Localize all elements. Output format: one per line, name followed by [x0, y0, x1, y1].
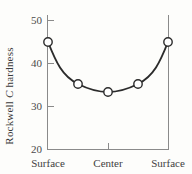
x-tick-label-surface-left: Surface — [31, 157, 65, 169]
y-tick-label-40: 40 — [31, 57, 43, 69]
y-axis-label-prefix: Rockwell — [3, 98, 15, 145]
y-tick-label-20: 20 — [31, 143, 43, 155]
y-axis-label-suffix: hardness — [3, 47, 15, 90]
data-point-surface-right — [164, 38, 172, 46]
x-tick-label-center: Center — [93, 157, 123, 169]
data-point-center — [104, 88, 112, 96]
y-tick-label-50: 50 — [31, 14, 43, 26]
chart-canvas: Rockwell C hardness 50 40 30 20 Surface … — [0, 0, 192, 174]
y-tick-label-30: 30 — [31, 100, 43, 112]
hardness-profile-figure: Rockwell C hardness 50 40 30 20 Surface … — [0, 0, 192, 174]
data-point-mid-right — [134, 80, 142, 88]
x-tick-label-surface-right: Surface — [151, 157, 185, 169]
data-point-surface-left — [44, 38, 52, 46]
hardness-curve — [48, 42, 168, 92]
data-point-mid-left — [74, 80, 82, 88]
y-axis-label: Rockwell C hardness — [3, 47, 15, 144]
